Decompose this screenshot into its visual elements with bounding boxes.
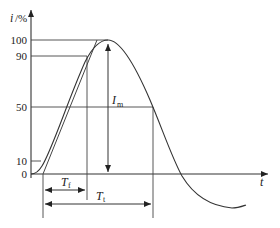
y-tick-0: 0 — [22, 168, 28, 180]
y-axis-label-var: i — [10, 11, 13, 25]
y-tick-50: 50 — [16, 101, 28, 113]
y-axis-label-unit: /% — [15, 12, 27, 24]
y-tick-100: 100 — [11, 34, 28, 46]
waveform-diagram: i /% t 100 90 50 10 0 I m T f T t — [0, 0, 280, 228]
y-tick-90: 90 — [16, 50, 28, 62]
peak-label-sub: m — [117, 100, 124, 109]
axes — [31, 10, 268, 178]
y-tick-10: 10 — [16, 155, 28, 167]
x-axis-label: t — [260, 175, 264, 189]
reference-lines — [31, 40, 153, 218]
front-time-label-sub: f — [68, 181, 71, 190]
tail-time-label-sub: t — [103, 195, 106, 204]
